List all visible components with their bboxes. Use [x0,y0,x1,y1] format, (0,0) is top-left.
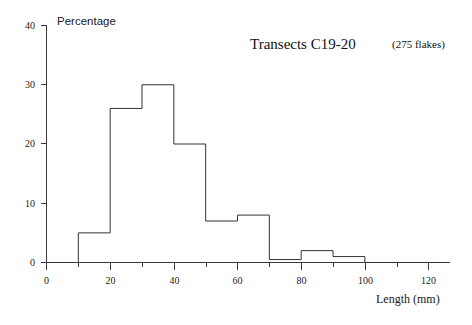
histogram-figure: Transects C19-20 (275 flakes) Percentage… [0,0,472,325]
x-tick-label: 20 [106,275,116,286]
y-axis-tick-labels: 0 10 20 30 40 [25,20,35,268]
chart-subtitle: (275 flakes) [392,38,445,51]
y-axis-ticks [41,26,47,263]
chart-title: Transects C19-20 [250,36,356,52]
y-tick-label: 40 [25,20,35,31]
x-axis-tick-labels: 0 20 40 60 80 100 120 [44,275,436,286]
x-tick-label: 40 [170,275,180,286]
x-axis-major-ticks [47,263,429,270]
chart-canvas: Transects C19-20 (275 flakes) Percentage… [0,0,472,325]
x-tick-label: 0 [44,275,49,286]
y-tick-label: 20 [25,138,35,149]
y-tick-label: 10 [25,198,35,209]
y-axis-title: Percentage [57,15,116,27]
x-tick-label: 120 [421,275,436,286]
x-axis-title: Length (mm) [376,292,440,306]
x-tick-label: 60 [233,275,243,286]
y-tick-label: 30 [25,79,35,90]
x-tick-label: 80 [297,275,307,286]
y-tick-label: 0 [30,257,35,268]
histogram-outline [47,85,445,263]
x-tick-label: 100 [358,275,373,286]
